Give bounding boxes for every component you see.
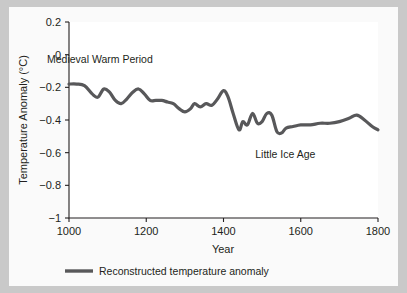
x-axis-tick-labels: 10001200140016001800 (57, 225, 390, 237)
x-tick-label: 1800 (366, 225, 390, 237)
x-tick-label: 1200 (134, 225, 158, 237)
x-axis-title: Year (212, 243, 235, 255)
y-tick-label: −0.2 (39, 81, 61, 93)
y-tick-label: −0.4 (39, 114, 61, 126)
x-tick-label: 1000 (57, 225, 81, 237)
temperature-anomaly-line-chart: 0.20−0.2−0.4−0.6−0.8−1 10001200140016001… (9, 7, 398, 286)
y-tick-label: −1 (48, 212, 61, 224)
y-axis-tick-labels: 0.20−0.2−0.4−0.6−0.8−1 (39, 16, 61, 224)
y-axis-title: Temperature Anomaly (°C) (17, 55, 29, 185)
legend-label: Reconstructed temperature anomaly (99, 265, 270, 277)
chart-figure: 0.20−0.2−0.4−0.6−0.8−1 10001200140016001… (9, 7, 398, 286)
y-axis-ticks (65, 22, 69, 218)
chart-legend: Reconstructed temperature anomaly (65, 265, 270, 277)
x-axis-ticks (69, 218, 378, 222)
x-tick-label: 1400 (211, 225, 235, 237)
chart-annotation: Medieval Warm Period (47, 53, 153, 65)
y-tick-label: −0.6 (39, 147, 61, 159)
y-tick-label: −0.8 (39, 179, 61, 191)
plot-area-background (69, 22, 378, 218)
y-tick-label: 0.2 (46, 16, 61, 28)
chart-annotation: Little Ice Age (255, 148, 315, 160)
x-tick-label: 1600 (289, 225, 313, 237)
